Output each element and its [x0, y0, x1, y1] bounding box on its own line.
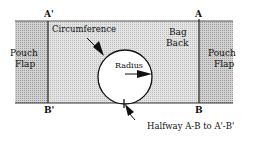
- label-b: B: [195, 105, 203, 115]
- right-pouch-label-line1: Pouch: [208, 48, 236, 58]
- radius-label: Radius: [115, 61, 143, 70]
- label-b-prime: B': [44, 105, 54, 115]
- pouch-circle: [98, 50, 152, 104]
- halfway-label: Halfway A-B to A'-B': [147, 121, 234, 131]
- bag-back-label-line2: Back: [166, 38, 189, 48]
- label-a: A: [194, 9, 203, 19]
- circumference-label: Circumference: [52, 24, 116, 34]
- right-pouch-label-line2: Flap: [214, 59, 234, 69]
- bag-back-label-line1: Bag: [169, 27, 187, 37]
- label-a-prime: A': [43, 9, 54, 19]
- left-pouch-label-line1: Pouch: [10, 48, 38, 58]
- halfway-arrowhead-icon: [125, 104, 134, 116]
- left-pouch-label-line2: Flap: [15, 59, 35, 69]
- pouch-pattern-diagram: A' A B' B Pouch Flap Pouch Flap Bag Back…: [0, 0, 259, 141]
